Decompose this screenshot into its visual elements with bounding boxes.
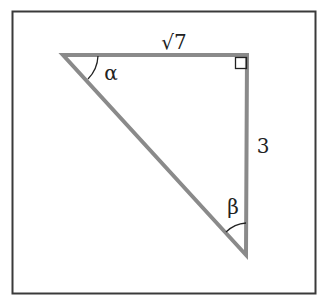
- right-triangle-diagram: √7 3 α β: [0, 0, 326, 306]
- angle-label-alpha: α: [104, 61, 118, 85]
- side-label-right: 3: [257, 134, 270, 158]
- side-label-top: √7: [161, 30, 186, 54]
- angle-label-beta: β: [227, 195, 239, 219]
